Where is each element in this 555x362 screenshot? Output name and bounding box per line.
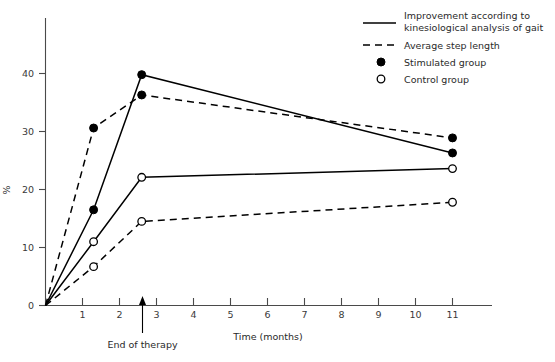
x-tick-label-2: 2 <box>116 309 122 320</box>
series-line-control-step-length <box>46 202 453 305</box>
x-tick-label-3: 3 <box>153 309 159 320</box>
legend-label-step-length: Average step length <box>404 40 500 51</box>
y-axis-title: % <box>1 185 12 194</box>
data-point-marker <box>90 206 98 214</box>
data-point-marker <box>449 198 457 206</box>
y-tick-label-10: 10 <box>22 242 34 253</box>
x-tick-label-6: 6 <box>264 309 270 320</box>
x-axis-title: Time (months) <box>232 331 302 342</box>
y-axis: 40 30 20 10 0 % <box>1 18 46 311</box>
y-tick-label-20: 20 <box>22 184 34 195</box>
legend-item-stimulated-group: Stimulated group <box>377 57 486 68</box>
legend-item-control-group: Control group <box>377 74 469 85</box>
legend-filled-circle-icon <box>377 58 385 66</box>
annotation-end-of-therapy: End of therapy <box>107 296 178 350</box>
x-tick-label-8: 8 <box>338 309 344 320</box>
x-tick-label-11: 11 <box>446 309 458 320</box>
legend-label-gait-line1: Improvement according to <box>404 10 530 21</box>
data-point-marker <box>90 238 98 246</box>
y-tick-label-30: 30 <box>22 126 34 137</box>
legend-item-gait-improvement: Improvement according to kinesiological … <box>363 10 543 33</box>
data-point-marker <box>449 134 457 142</box>
legend-label-gait-line2: kinesiological analysis of gait <box>404 22 543 33</box>
data-point-marker <box>138 71 146 79</box>
data-point-marker <box>90 263 98 271</box>
data-point-marker <box>138 218 146 226</box>
data-point-marker <box>449 149 457 157</box>
series-line-control-gait <box>46 169 453 306</box>
legend-item-average-step-length: Average step length <box>363 40 500 51</box>
x-tick-label-1: 1 <box>79 309 85 320</box>
y-tick-label-40: 40 <box>22 68 34 79</box>
x-tick-label-7: 7 <box>301 309 307 320</box>
y-tick-label-0: 0 <box>28 300 34 311</box>
x-tick-label-4: 4 <box>190 309 196 320</box>
legend-open-circle-icon <box>377 75 385 83</box>
chart-legend: Improvement according to kinesiological … <box>363 10 543 85</box>
x-tick-label-9: 9 <box>375 309 381 320</box>
x-axis: 1 2 3 4 5 6 7 8 9 10 11 Time (months) <box>46 298 493 342</box>
legend-label-stimulated: Stimulated group <box>404 57 486 68</box>
data-point-marker <box>449 165 457 173</box>
series-line-stimulated-step-length <box>46 95 453 306</box>
data-point-marker <box>138 91 146 99</box>
data-point-marker <box>138 174 146 182</box>
end-of-therapy-arrow-head-icon <box>139 296 146 305</box>
series-group <box>46 75 453 306</box>
end-of-therapy-label: End of therapy <box>107 339 178 350</box>
x-tick-label-10: 10 <box>409 309 421 320</box>
data-point-marker <box>90 124 98 132</box>
chart-figure: 40 30 20 10 0 % 1 2 3 4 5 6 7 <box>0 0 555 362</box>
x-tick-label-5: 5 <box>227 309 233 320</box>
legend-label-control: Control group <box>404 74 469 85</box>
chart-svg: 40 30 20 10 0 % 1 2 3 4 5 6 7 <box>0 0 555 362</box>
